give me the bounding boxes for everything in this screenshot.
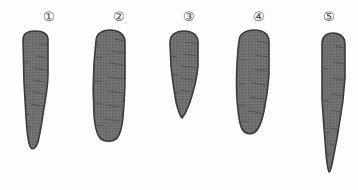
root-body (23, 31, 48, 149)
root-body (93, 30, 125, 141)
specimen-2-drawing (88, 29, 132, 145)
specimen-2 (88, 29, 132, 145)
specimen-5 (312, 32, 350, 176)
specimen-label-5: ⑤ (318, 10, 340, 23)
specimen-4-drawing (230, 29, 276, 139)
root-body (237, 30, 269, 134)
specimen-4 (230, 29, 276, 139)
specimen-3 (161, 30, 205, 122)
specimen-label-1: ① (38, 10, 60, 23)
specimen-label-2: ② (108, 10, 130, 23)
specimen-label-3: ③ (178, 10, 200, 23)
specimen-3-drawing (161, 30, 205, 122)
carrot-root-shape-figure: ①②③④⑤ (0, 0, 358, 190)
root-body (322, 33, 345, 172)
specimen-5-drawing (312, 32, 350, 176)
specimen-label-4: ④ (248, 10, 270, 23)
specimen-1-drawing (17, 30, 53, 152)
specimen-1 (17, 30, 53, 152)
